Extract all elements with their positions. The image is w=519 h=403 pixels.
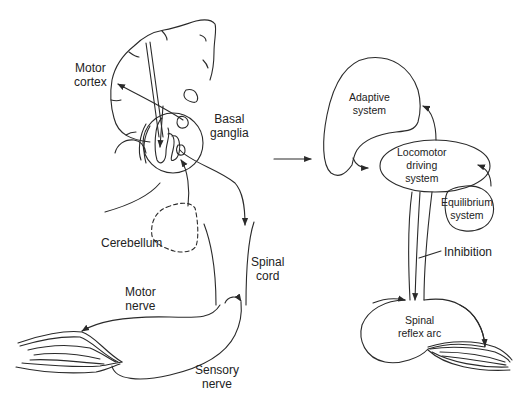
label-line: ganglia	[210, 126, 249, 140]
label-line: Motor	[74, 61, 107, 75]
tract-middle	[415, 192, 420, 300]
label-adaptive-system: Adaptive system	[349, 91, 390, 117]
brain-outline	[111, 20, 216, 163]
label-line: nerve	[125, 299, 156, 313]
label-line: Locomotor	[397, 146, 447, 159]
label-sensory-nerve: Sensory nerve	[195, 363, 239, 391]
label-line: Cerebellum	[101, 236, 162, 250]
label-line: system	[441, 209, 493, 222]
arrow-tract-down	[160, 106, 163, 147]
arrow-adaptive-to-locomotor	[353, 158, 368, 168]
label-equilibrium-system: Equilibrium system	[441, 196, 493, 222]
inhibition-pointer	[419, 251, 441, 258]
arrow-to-spinal-cord	[180, 150, 245, 225]
diagram-canvas: Motor cortex Basal ganglia Cerebellum Sp…	[0, 0, 519, 403]
label-line: driving	[397, 159, 447, 172]
label-locomotor-driving-system: Locomotor driving system	[397, 146, 447, 185]
tract-left	[409, 192, 412, 300]
arrow-equilibrium-to-locomotor	[478, 165, 491, 186]
spinal-cord-left	[204, 224, 216, 305]
reflex-loop-arrow	[225, 297, 241, 303]
label-inhibition: Inhibition	[444, 245, 492, 259]
label-line: system	[397, 172, 447, 185]
left-muscle	[16, 332, 122, 373]
label-spinal-cord: Spinal cord	[251, 255, 284, 283]
label-line: Spinal	[251, 255, 284, 269]
arrow-to-motor-cortex	[118, 84, 183, 120]
arrow-locomotor-to-adaptive	[423, 106, 436, 140]
label-spinal-reflex-arc: Spinal reflex arc	[398, 314, 441, 340]
label-basal-ganglia: Basal ganglia	[210, 112, 249, 140]
label-line: Sensory	[195, 363, 239, 377]
label-motor-cortex: Motor cortex	[74, 61, 107, 89]
label-line: cord	[251, 269, 284, 283]
label-line: Adaptive	[349, 91, 390, 104]
label-line: cortex	[74, 75, 107, 89]
label-line: system	[349, 104, 390, 117]
label-line: reflex arc	[398, 327, 441, 340]
arrow-cerebellum-to-basal	[181, 160, 189, 206]
label-line: Spinal	[398, 314, 441, 327]
label-line: Equilibrium	[441, 196, 493, 209]
label-motor-nerve: Motor nerve	[125, 285, 156, 313]
tract-right	[424, 192, 432, 300]
basal-ganglia-circle	[143, 113, 203, 173]
label-line: Motor	[125, 285, 156, 299]
brainstem-line	[105, 183, 160, 212]
arrow-reflex-to-muscle	[460, 305, 485, 346]
label-line: Inhibition	[444, 245, 492, 259]
label-line: Basal	[210, 112, 249, 126]
label-cerebellum: Cerebellum	[101, 236, 162, 250]
label-line: nerve	[195, 377, 239, 391]
